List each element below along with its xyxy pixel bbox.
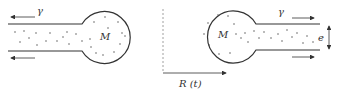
left-rim: M γ: [8, 5, 130, 64]
right-tension-label: γ: [278, 6, 284, 17]
left-tension-label: γ: [37, 5, 43, 16]
left-rim-outline: [8, 11, 130, 63]
thickness-label: e: [318, 32, 324, 43]
right-mass-label: M: [217, 29, 229, 40]
radius-axis: R (t): [163, 9, 226, 89]
radius-label: R (t): [178, 78, 202, 89]
diagram-canvas: M γ R (t) M γ e: [0, 0, 337, 96]
left-mass-label: M: [99, 31, 111, 42]
right-rim: M γ e: [203, 6, 329, 63]
